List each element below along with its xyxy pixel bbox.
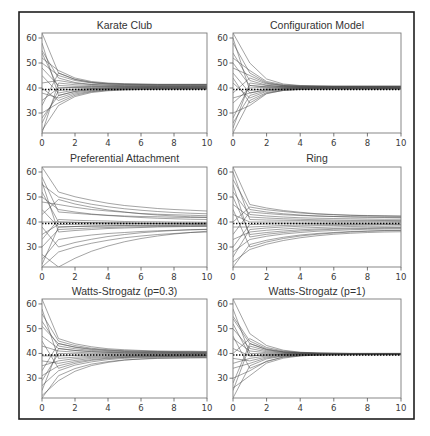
x-tick-label: 6 <box>331 272 336 282</box>
x-tick-label: 8 <box>365 403 370 413</box>
x-tick-label: 4 <box>105 272 110 282</box>
y-tick-label: 60 <box>26 299 37 309</box>
x-tick-label: 2 <box>72 403 77 413</box>
x-tick-label: 6 <box>331 403 336 413</box>
y-tick-label: 60 <box>217 167 228 177</box>
y-tick-label: 40 <box>26 348 37 358</box>
panel-title: Watts-Strogatz (p=1) <box>269 285 366 297</box>
y-tick-label: 50 <box>26 324 37 334</box>
y-tick-label: 60 <box>26 33 37 43</box>
x-tick-label: 6 <box>331 138 336 148</box>
x-tick-label: 0 <box>39 272 44 282</box>
y-tick-label: 40 <box>217 217 228 227</box>
y-tick-label: 50 <box>217 324 228 334</box>
x-tick-label: 8 <box>171 272 176 282</box>
panel-title: Watts-Strogatz (p=0.3) <box>72 285 178 297</box>
x-tick-label: 4 <box>297 138 302 148</box>
y-tick-label: 50 <box>26 192 37 202</box>
y-tick-label: 50 <box>26 58 37 68</box>
figure-background <box>0 0 430 436</box>
panel-title: Ring <box>306 152 328 164</box>
y-tick-label: 60 <box>26 167 37 177</box>
y-tick-label: 50 <box>217 58 228 68</box>
y-tick-label: 50 <box>217 192 228 202</box>
x-tick-label: 10 <box>202 138 213 148</box>
y-tick-label: 30 <box>26 108 37 118</box>
panel-title: Configuration Model <box>270 19 364 31</box>
y-tick-label: 40 <box>217 83 228 93</box>
x-tick-label: 8 <box>171 403 176 413</box>
y-tick-label: 30 <box>217 242 228 252</box>
x-tick-label: 0 <box>230 138 235 148</box>
panel-title: Karate Club <box>97 19 153 31</box>
x-tick-label: 6 <box>138 272 143 282</box>
x-tick-label: 0 <box>39 138 44 148</box>
x-tick-label: 2 <box>264 272 269 282</box>
x-tick-label: 4 <box>105 403 110 413</box>
x-tick-label: 8 <box>365 138 370 148</box>
x-tick-label: 4 <box>297 272 302 282</box>
figure: Karate Club 024681030405060 Configuratio… <box>0 0 430 436</box>
y-tick-label: 30 <box>217 373 228 383</box>
x-tick-label: 8 <box>171 138 176 148</box>
x-tick-label: 0 <box>230 272 235 282</box>
x-tick-label: 2 <box>264 403 269 413</box>
x-tick-label: 6 <box>138 403 143 413</box>
x-tick-label: 2 <box>72 272 77 282</box>
x-tick-label: 10 <box>396 403 407 413</box>
x-tick-label: 10 <box>202 272 213 282</box>
x-tick-label: 0 <box>39 403 44 413</box>
y-tick-label: 30 <box>26 242 37 252</box>
x-tick-label: 10 <box>396 272 407 282</box>
y-tick-label: 40 <box>26 217 37 227</box>
x-tick-label: 0 <box>230 403 235 413</box>
x-tick-label: 2 <box>264 138 269 148</box>
y-tick-label: 60 <box>217 299 228 309</box>
y-tick-label: 30 <box>217 108 228 118</box>
x-tick-label: 10 <box>396 138 407 148</box>
y-tick-label: 40 <box>26 83 37 93</box>
y-tick-label: 30 <box>26 373 37 383</box>
y-tick-label: 40 <box>217 348 228 358</box>
x-tick-label: 10 <box>202 403 213 413</box>
x-tick-label: 8 <box>365 272 370 282</box>
x-tick-label: 4 <box>105 138 110 148</box>
y-tick-label: 60 <box>217 33 228 43</box>
panel-title: Preferential Attachment <box>70 152 179 164</box>
x-tick-label: 2 <box>72 138 77 148</box>
x-tick-label: 6 <box>138 138 143 148</box>
x-tick-label: 4 <box>297 403 302 413</box>
